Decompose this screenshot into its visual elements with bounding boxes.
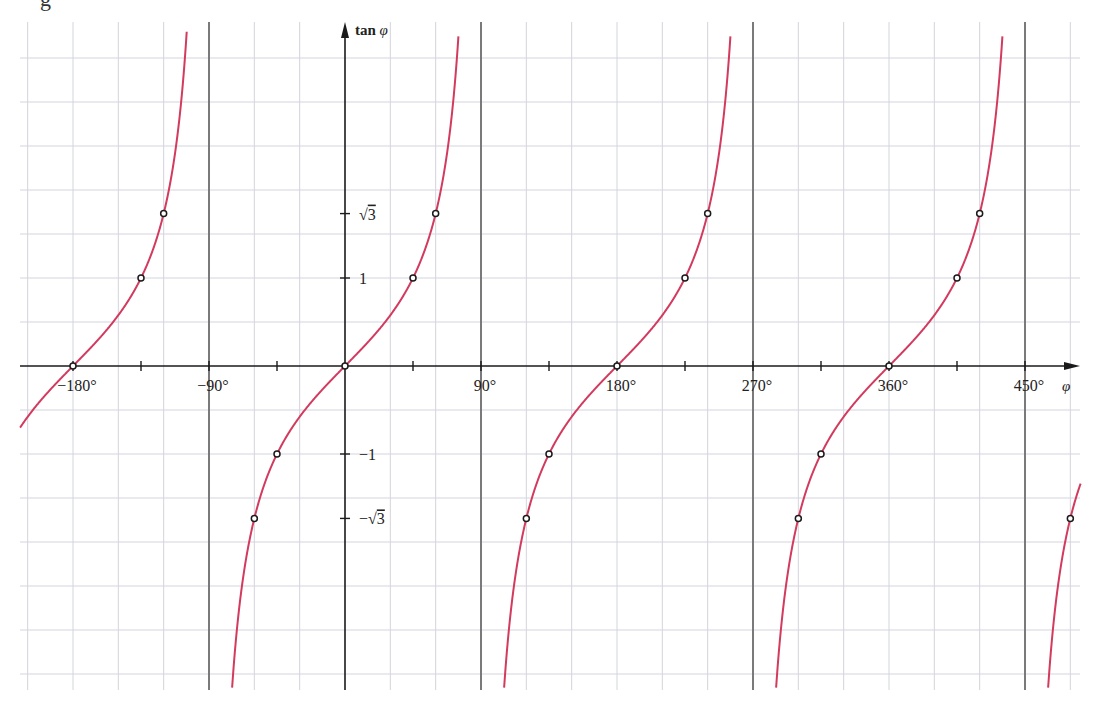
marked-point <box>795 515 801 521</box>
marked-point <box>682 275 688 281</box>
marked-point <box>138 275 144 281</box>
x-tick-label: 360° <box>878 377 908 394</box>
marked-point <box>977 211 983 217</box>
marked-point <box>410 275 416 281</box>
marked-point <box>705 211 711 217</box>
tan-curve-branch <box>20 32 187 428</box>
marked-point <box>886 363 892 369</box>
y-tick-label: −√3 <box>359 510 385 527</box>
marked-point <box>614 363 620 369</box>
y-axis-arrow-icon <box>341 22 349 38</box>
y-tick-label: √3 <box>359 206 376 223</box>
marked-point <box>251 515 257 521</box>
y-tick-label: 1 <box>359 270 367 287</box>
marked-point <box>1067 515 1073 521</box>
marked-point <box>523 515 529 521</box>
x-axis-title: φ <box>1062 378 1070 394</box>
marked-point <box>546 451 552 457</box>
x-tick-label: 180° <box>606 377 636 394</box>
marked-point <box>818 451 824 457</box>
marked-point <box>954 275 960 281</box>
marked-point <box>433 211 439 217</box>
tan-curve <box>20 32 1081 688</box>
marked-point <box>274 451 280 457</box>
x-tick-label: −90° <box>197 377 228 394</box>
tangent-chart: −180°−90°90°180°270°360°450°√31−1−√3 tan… <box>0 0 1095 706</box>
x-tick-label: −180° <box>57 377 96 394</box>
marked-point <box>70 363 76 369</box>
x-axis-arrow-icon <box>1064 362 1080 370</box>
y-tick-label: −1 <box>359 446 376 463</box>
y-axis-title: tan φ <box>355 22 388 38</box>
marked-point <box>342 363 348 369</box>
marked-point <box>161 211 167 217</box>
x-tick-label: 90° <box>474 377 496 394</box>
x-tick-label: 450° <box>1014 377 1044 394</box>
x-tick-label: 270° <box>742 377 772 394</box>
